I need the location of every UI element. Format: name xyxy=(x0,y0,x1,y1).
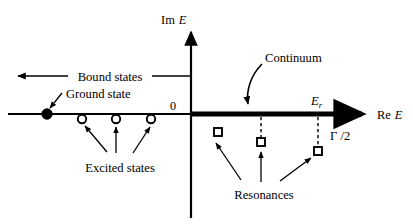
resonance-pointer xyxy=(216,143,241,180)
complex-plane-canvas: ImE ReE 0 Bound states Ground state xyxy=(0,0,413,224)
resonance-energy-label: Er xyxy=(310,94,323,110)
resonances-label: Resonances xyxy=(234,188,294,202)
excited-state-pointer xyxy=(133,127,150,153)
continuum-pointer xyxy=(248,64,262,104)
ground-state-label: Ground state xyxy=(66,87,131,101)
resonance-energy-annotation: Er Γ /2 xyxy=(310,94,350,147)
continuum-label: Continuum xyxy=(265,51,322,65)
resonance-pointer xyxy=(280,158,311,181)
ground-state-pole-marker xyxy=(42,109,52,119)
excited-states-annotation: Excited states xyxy=(78,115,155,175)
excited-state-pole-marker xyxy=(147,115,155,123)
excited-states-label: Excited states xyxy=(85,161,155,175)
imaginary-axis-label: ImE xyxy=(161,13,187,27)
half-width-label: Γ /2 xyxy=(330,129,350,143)
axis-labels: ImE ReE 0 xyxy=(161,13,403,122)
ground-state-pointer xyxy=(50,93,62,108)
excited-state-pole-marker xyxy=(112,115,120,123)
resonance-pole-marker xyxy=(314,147,322,155)
bound-states-label: Bound states xyxy=(78,70,143,84)
resonances-annotation: Resonances xyxy=(214,117,322,202)
excited-state-pole-marker xyxy=(78,115,86,123)
complex-energy-plane-figure: ImE ReE 0 Bound states Ground state xyxy=(0,0,413,224)
resonance-pole-marker xyxy=(214,128,222,136)
resonance-pole-marker xyxy=(257,138,265,146)
bound-states-annotation: Bound states xyxy=(18,70,191,84)
origin-label: 0 xyxy=(170,99,176,113)
real-axis-label: ReE xyxy=(377,108,403,122)
excited-state-pointer xyxy=(85,126,107,152)
